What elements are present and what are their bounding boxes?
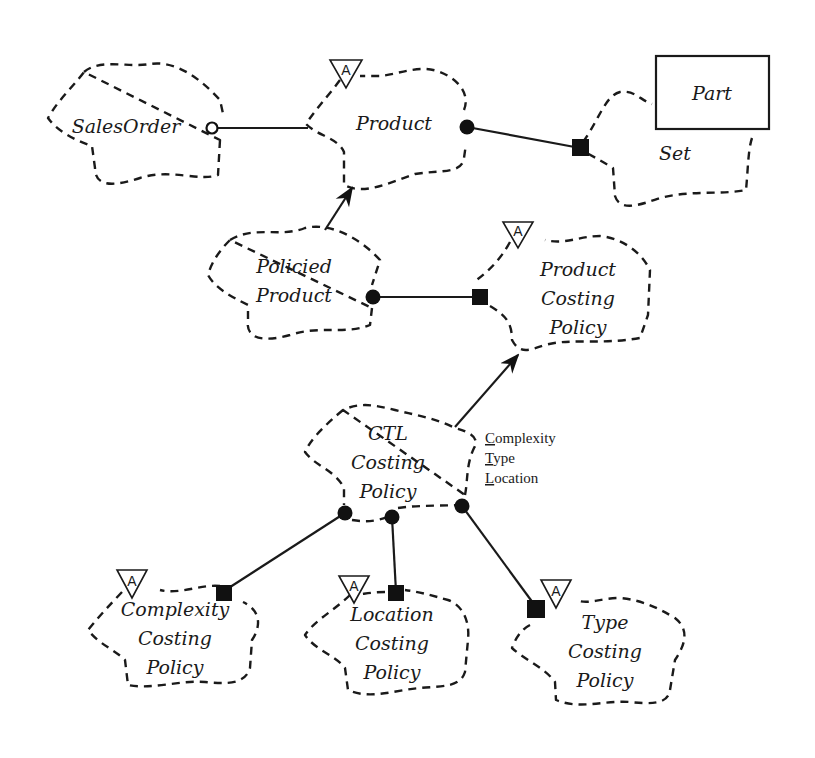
filled-square-icon bbox=[472, 289, 488, 305]
class-product-costing-policy[interactable]: A Product Costing Policy bbox=[474, 222, 650, 350]
class-complexity-costing-policy[interactable]: A Complexity Costing Policy bbox=[88, 570, 258, 686]
set-label: Set bbox=[659, 142, 691, 164]
param-location: Location bbox=[485, 470, 539, 486]
abstract-adornment-icon: A bbox=[339, 576, 369, 603]
ctl-costing-policy-label-line1: CTL bbox=[368, 422, 408, 444]
class-salesorder[interactable]: SalesOrder bbox=[48, 63, 224, 183]
class-product[interactable]: A Product bbox=[306, 60, 466, 189]
salesorder-product-association[interactable] bbox=[207, 123, 309, 134]
inherits-arrow-icon[interactable] bbox=[325, 188, 352, 230]
ctl-location-has[interactable] bbox=[385, 510, 405, 602]
complexity-costing-policy-label-line1: Complexity bbox=[121, 598, 230, 620]
ctl-complexity-has[interactable] bbox=[216, 506, 353, 602]
svg-text:A: A bbox=[127, 573, 137, 589]
type-costing-policy-label-line1: Type bbox=[582, 611, 629, 633]
parameterization-list: Complexity Type Location bbox=[485, 430, 556, 486]
svg-text:A: A bbox=[349, 578, 359, 594]
filled-circle-icon bbox=[338, 506, 353, 521]
part-label: Part bbox=[691, 82, 732, 104]
svg-text:A: A bbox=[341, 62, 351, 78]
svg-text:A: A bbox=[551, 583, 561, 599]
svg-text:A: A bbox=[513, 223, 523, 239]
class-policied-product[interactable]: Policied Product bbox=[208, 227, 380, 339]
policied-product-label-line2: Product bbox=[255, 284, 332, 306]
location-costing-policy-label-line2: Costing bbox=[355, 632, 429, 654]
salesorder-label: SalesOrder bbox=[72, 115, 182, 137]
class-type-costing-policy[interactable]: A Type Costing Policy bbox=[512, 580, 684, 705]
class-location-costing-policy[interactable]: A Location Costing Policy bbox=[305, 576, 468, 694]
product-costing-policy-label-line1: Product bbox=[539, 258, 616, 280]
filled-circle-icon bbox=[366, 290, 381, 305]
class-ctl-costing-policy[interactable]: CTL Costing Policy Complexity Type Locat… bbox=[305, 405, 556, 521]
product-label: Product bbox=[355, 112, 432, 134]
abstract-adornment-icon: A bbox=[541, 580, 571, 608]
product-set-has[interactable] bbox=[460, 120, 590, 157]
ctl-type-has[interactable] bbox=[455, 499, 546, 619]
ctl-costing-policy-label-line2: Costing bbox=[351, 451, 425, 473]
filled-square-icon bbox=[216, 585, 232, 601]
policied-product-label-line1: Policied bbox=[255, 255, 332, 277]
class-set[interactable]: Part Set bbox=[583, 56, 769, 206]
inherits-arrow-icon[interactable] bbox=[455, 355, 518, 427]
abstract-adornment-icon: A bbox=[330, 60, 362, 88]
param-complexity: Complexity bbox=[485, 430, 556, 446]
type-costing-policy-label-line3: Policy bbox=[576, 669, 634, 691]
filled-circle-icon bbox=[385, 510, 400, 525]
complexity-costing-policy-label-line2: Costing bbox=[138, 627, 212, 649]
product-costing-policy-label-line2: Costing bbox=[541, 287, 615, 309]
class-diagram: SalesOrder A Product Part Set Policied P… bbox=[0, 0, 815, 758]
hollow-circle-icon bbox=[207, 123, 218, 134]
policied-product-cloud-outline bbox=[208, 227, 380, 339]
location-costing-policy-label-line1: Location bbox=[349, 603, 433, 625]
policied-product-costing-policy-has[interactable] bbox=[366, 289, 489, 305]
filled-square-icon bbox=[572, 139, 589, 156]
type-costing-policy-label-line2: Costing bbox=[568, 640, 642, 662]
param-type: Type bbox=[485, 450, 515, 466]
product-costing-policy-label-line3: Policy bbox=[549, 316, 607, 338]
filled-square-icon bbox=[527, 600, 545, 618]
filled-circle-icon bbox=[455, 499, 470, 514]
ctl-costing-policy-label-line3: Policy bbox=[359, 480, 417, 502]
filled-circle-icon bbox=[460, 120, 475, 135]
complexity-costing-policy-label-line3: Policy bbox=[146, 656, 204, 678]
filled-square-icon bbox=[388, 585, 404, 601]
location-costing-policy-label-line3: Policy bbox=[363, 661, 421, 683]
